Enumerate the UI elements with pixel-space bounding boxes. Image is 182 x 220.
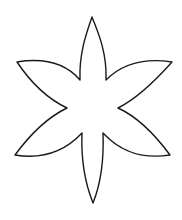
flower-outline-illustration <box>0 0 182 220</box>
drawing-canvas <box>0 0 182 220</box>
